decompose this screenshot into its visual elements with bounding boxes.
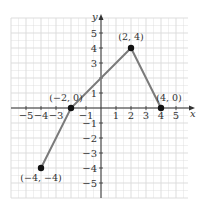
y-axis-arrow-icon	[99, 14, 104, 20]
data-point	[68, 105, 74, 111]
x-tick-label: 4	[158, 110, 164, 121]
point-label: (4, 0)	[156, 92, 182, 103]
x-tick-label: 5	[173, 110, 179, 121]
data-point	[38, 165, 44, 171]
axes	[11, 14, 195, 198]
y-tick-label: −4	[82, 163, 97, 174]
x-axis-label: x	[190, 108, 196, 119]
x-tick-label: −5	[19, 110, 34, 121]
point-label: (−4, −4)	[20, 172, 61, 183]
y-tick-label: −1	[82, 118, 97, 129]
x-tick-label: 2	[128, 110, 134, 121]
x-tick-label: 1	[113, 110, 119, 121]
y-axis-label: y	[91, 11, 98, 22]
function-graph: −5−4−3−1123455431−1−2−3−4−5xy (−4, −4)(−…	[0, 0, 206, 204]
x-tick-label: −3	[49, 110, 64, 121]
y-tick-label: 3	[91, 58, 97, 69]
y-tick-label: 4	[91, 43, 97, 54]
data-point	[128, 45, 134, 51]
y-tick-label: −2	[82, 133, 97, 144]
x-tick-label: 3	[143, 110, 149, 121]
x-tick-label: −4	[34, 110, 49, 121]
y-tick-label: 1	[91, 88, 97, 99]
point-label: (2, 4)	[118, 31, 144, 42]
data-point	[158, 105, 164, 111]
y-tick-label: 5	[91, 28, 97, 39]
point-label: (−2, 0)	[49, 92, 83, 103]
y-tick-label: −3	[82, 148, 97, 159]
y-tick-label: −5	[82, 178, 97, 189]
